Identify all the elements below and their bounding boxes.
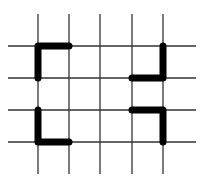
bottom-right-corner [132, 110, 163, 142]
grid-lines [8, 14, 196, 174]
top-left-corner [38, 46, 69, 78]
top-right-corner [132, 46, 163, 78]
bottom-left-corner [38, 110, 69, 142]
grid-diagram [0, 0, 206, 182]
